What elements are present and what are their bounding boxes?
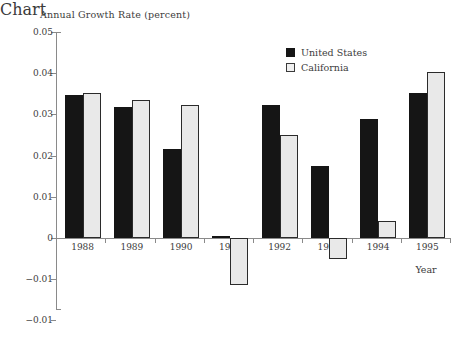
- x-axis-tick: [302, 238, 303, 243]
- x-axis-label-1989: 1989: [120, 242, 143, 252]
- legend-entry-california: California: [286, 60, 367, 75]
- annual-growth-rate-bar-chart: Annual Growth Rate (percent) 0.050.040.0…: [0, 0, 465, 342]
- x-axis-tick: [155, 238, 156, 243]
- legend-entry-united-states: United States: [286, 45, 367, 60]
- bar-united-states-1989: [114, 107, 132, 238]
- y-axis-bottom-cap: [56, 309, 61, 310]
- bar-california-1988: [83, 93, 101, 238]
- x-axis-tick: [352, 238, 353, 243]
- legend-label-united-states: United States: [301, 47, 367, 58]
- bar-california-1993: [329, 238, 347, 259]
- x-axis-label-1994: 1994: [367, 242, 390, 252]
- bar-california-1994: [378, 221, 396, 238]
- y-axis-spine: [56, 32, 57, 310]
- bar-california-1995: [427, 72, 445, 238]
- x-axis-label-1990: 1990: [170, 242, 193, 252]
- plot-area: 0.050.040.030.020.010−0.01−0.01 19881989…: [56, 32, 450, 310]
- x-axis-tick: [253, 238, 254, 243]
- y-axis-tick-label: −0.01: [25, 274, 53, 284]
- bar-california-1992: [280, 135, 298, 238]
- x-axis-title: Year: [415, 264, 436, 275]
- y-axis-tick-label: 0.04: [33, 68, 53, 78]
- x-axis-tick: [105, 238, 106, 243]
- bar-california-1991: [230, 238, 248, 285]
- bar-california-1990: [181, 105, 199, 238]
- outlined-light-square-icon: [286, 63, 295, 72]
- bar-united-states-1988: [65, 95, 83, 238]
- bar-united-states-1990: [163, 149, 181, 238]
- y-axis-tick-label: 0.05: [33, 27, 53, 37]
- y-axis-top-cap: [56, 32, 61, 33]
- bar-united-states-1994: [360, 119, 378, 238]
- bar-california-1989: [132, 100, 150, 238]
- x-axis-label-1992: 1992: [268, 242, 291, 252]
- y-axis-tick-label: 0.02: [33, 151, 53, 161]
- x-axis-label-1988: 1988: [71, 242, 94, 252]
- y-axis-tick-label: 0.03: [33, 109, 53, 119]
- bar-united-states-1992: [262, 105, 280, 238]
- x-axis-tick: [204, 238, 205, 243]
- y-axis-tick-label: 0.01: [33, 192, 53, 202]
- legend-label-california: California: [301, 62, 349, 73]
- x-axis-label-1995: 1995: [416, 242, 439, 252]
- x-axis-tick: [401, 238, 402, 243]
- chart-title: Annual Growth Rate (percent): [40, 9, 190, 20]
- y-axis-tick-label: 0: [47, 233, 53, 243]
- filled-black-square-icon: [286, 48, 295, 57]
- bar-united-states-1995: [409, 93, 427, 238]
- legend: United States California: [286, 45, 367, 75]
- y-axis-tick-label: −0.01: [25, 315, 53, 325]
- bar-united-states-1991: [212, 236, 230, 238]
- x-axis-tick: [56, 238, 57, 243]
- x-axis-tick: [450, 238, 451, 243]
- bar-united-states-1993: [311, 166, 329, 238]
